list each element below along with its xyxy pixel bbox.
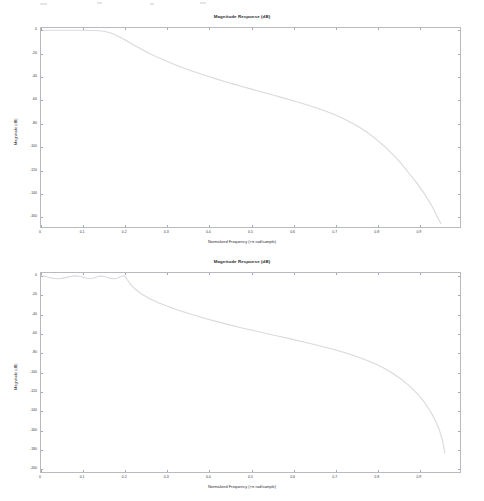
y-tick-label: -140	[18, 408, 37, 412]
x-tick-mark	[125, 470, 126, 472]
x-tick-mark-top	[167, 28, 168, 30]
response-curve-1	[41, 28, 460, 227]
x-tick-label: 0.4	[206, 230, 211, 234]
x-tick-mark-top	[420, 28, 421, 30]
x-tick-mark-top	[336, 273, 337, 275]
figure-title: Magnitude Response (dB)	[0, 259, 484, 264]
y-tick-mark-right	[458, 77, 460, 78]
y-tick-mark	[41, 411, 43, 412]
y-tick-mark-right	[458, 411, 460, 412]
y-tick-mark	[41, 194, 43, 195]
x-tick-mark-top	[336, 28, 337, 30]
x-tick-mark-top	[420, 273, 421, 275]
y-tick-mark-right	[458, 353, 460, 354]
y-tick-label: -120	[18, 168, 37, 172]
y-tick-mark-right	[458, 373, 460, 374]
x-tick-label: 0.5	[248, 475, 253, 479]
y-tick-mark	[41, 100, 43, 101]
figure-title: Magnitude Response (dB)	[0, 14, 484, 19]
y-tick-mark-right	[458, 100, 460, 101]
scan-artifact	[200, 2, 206, 4]
x-axis-title: Normalized Frequency (×π rad/sample)	[0, 484, 484, 489]
y-tick-label: -160	[18, 214, 37, 218]
y-tick-mark	[41, 353, 43, 354]
y-tick-mark	[41, 392, 43, 393]
x-tick-label: 0	[39, 475, 41, 479]
y-tick-mark	[41, 469, 43, 470]
y-tick-label: -160	[18, 428, 37, 432]
x-tick-label: 0.2	[122, 230, 127, 234]
y-tick-label: -100	[18, 370, 37, 374]
y-tick-label: -120	[18, 389, 37, 393]
x-tick-mark	[420, 470, 421, 472]
y-tick-mark-right	[458, 30, 460, 31]
y-tick-mark	[41, 334, 43, 335]
x-tick-mark	[420, 225, 421, 227]
x-tick-mark-top	[294, 273, 295, 275]
y-tick-mark	[41, 77, 43, 78]
x-tick-mark-top	[125, 28, 126, 30]
y-tick-mark-right	[458, 54, 460, 55]
magnitude-response-figure-2: Magnitude Response (dB) Normalized Frequ…	[0, 255, 484, 499]
x-tick-label: 0.6	[290, 230, 295, 234]
x-tick-label: 0	[39, 230, 41, 234]
x-tick-mark-top	[83, 273, 84, 275]
x-tick-label: 0.3	[164, 230, 169, 234]
x-tick-label: 0.7	[332, 230, 337, 234]
x-tick-mark	[336, 225, 337, 227]
x-tick-mark-top	[252, 28, 253, 30]
x-tick-mark	[125, 225, 126, 227]
y-axis-title: Magnitude (dB)	[13, 363, 18, 390]
x-tick-mark-top	[209, 28, 210, 30]
x-tick-mark	[252, 225, 253, 227]
y-tick-label: -140	[18, 191, 37, 195]
x-tick-mark	[41, 225, 42, 227]
y-tick-label: -60	[18, 97, 37, 101]
x-tick-mark-top	[378, 28, 379, 30]
x-tick-label: 0.1	[80, 475, 85, 479]
y-tick-mark	[41, 124, 43, 125]
x-tick-mark-top	[252, 273, 253, 275]
x-tick-mark	[41, 470, 42, 472]
x-tick-mark	[167, 470, 168, 472]
y-tick-mark-right	[458, 450, 460, 451]
y-tick-mark-right	[458, 217, 460, 218]
y-tick-mark	[41, 54, 43, 55]
x-tick-mark-top	[378, 273, 379, 275]
y-tick-mark-right	[458, 276, 460, 277]
y-tick-label: -80	[18, 350, 37, 354]
x-tick-label: 0.2	[122, 475, 127, 479]
y-tick-mark-right	[458, 124, 460, 125]
x-tick-label: 0.6	[290, 475, 295, 479]
scan-artifact	[97, 2, 102, 4]
y-tick-mark-right	[458, 392, 460, 393]
x-tick-label: 0.5	[248, 230, 253, 234]
scan-artifact	[150, 3, 154, 5]
response-curve-2	[41, 273, 460, 472]
y-tick-mark-right	[458, 295, 460, 296]
plot-axes	[40, 272, 461, 473]
y-tick-mark	[41, 315, 43, 316]
x-tick-label: 0.8	[374, 475, 379, 479]
y-tick-mark	[41, 450, 43, 451]
y-tick-label: 0	[18, 273, 37, 277]
x-tick-mark	[83, 470, 84, 472]
x-tick-mark	[336, 470, 337, 472]
plot-axes	[40, 27, 461, 228]
x-axis-title: Normalized Frequency (×π rad/sample)	[0, 239, 484, 244]
x-tick-mark-top	[209, 273, 210, 275]
x-tick-mark	[294, 470, 295, 472]
y-tick-label: -100	[18, 144, 37, 148]
x-tick-mark	[209, 470, 210, 472]
y-tick-mark	[41, 276, 43, 277]
x-tick-mark-top	[125, 273, 126, 275]
x-tick-label: 0.7	[332, 475, 337, 479]
y-tick-mark	[41, 171, 43, 172]
y-tick-label: -20	[18, 51, 37, 55]
x-tick-mark	[167, 225, 168, 227]
y-tick-mark-right	[458, 194, 460, 195]
y-tick-mark-right	[458, 171, 460, 172]
y-tick-mark-right	[458, 469, 460, 470]
magnitude-response-figure-1: Magnitude Response (dB) Normalized Frequ…	[0, 10, 484, 254]
x-tick-mark	[378, 470, 379, 472]
